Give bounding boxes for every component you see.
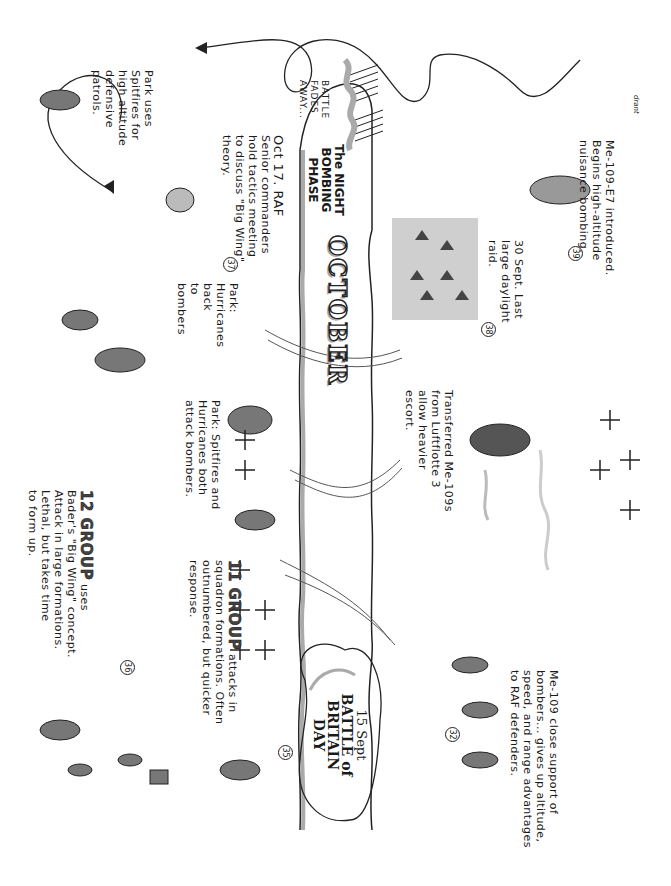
note-11-group: 11 GROUP attacks in squadron formations.… <box>187 560 240 724</box>
marker-38: 38 <box>481 322 501 340</box>
battle-fades-label: BATTLE FADES AWAY... <box>297 80 330 130</box>
note-park-both: Park: Spitfires and Hurricanes both atta… <box>183 400 222 510</box>
artist-signature: drant <box>632 95 640 114</box>
battle-of-britain-day: 15 Sept BATTLE of BRITAIN DAY <box>312 690 368 780</box>
heading-12-group: 12 GROUP <box>77 490 95 580</box>
month-label-october: OCTOBER <box>323 235 352 386</box>
marker-36: 36 <box>120 660 135 678</box>
smoke-trail-2 <box>485 470 488 520</box>
note-30-sept: 30 Sept. Last large daylight raid. <box>486 240 525 323</box>
marker-39: 39 <box>568 246 588 264</box>
arrowhead-left <box>195 42 207 54</box>
note-me109-support: Me-109 close support of bombers... gives… <box>508 670 560 848</box>
smoke-trail <box>540 450 549 570</box>
night-bombing-phase-label: The NIGHT BOMBING PHASE <box>306 140 345 220</box>
note-oct-17: Oct 17. RAF Senior commanders hold tacti… <box>220 135 285 263</box>
marker-32: 32 <box>445 727 465 745</box>
heading-11-group: 11 GROUP <box>225 560 243 650</box>
note-transferred: Transferred Me-109s from Luftflotte 3 al… <box>403 390 455 512</box>
arrowhead-path <box>104 180 114 194</box>
marker-35: 35 <box>278 745 298 763</box>
note-park-spitfires: Park uses Spitfires for high altitude de… <box>90 70 155 146</box>
note-12-group: 12 GROUP uses Bader's "Big Wing" concept… <box>26 490 92 658</box>
last-raid-patch <box>392 218 478 320</box>
note-park-hurricanes: Park: Hurricanes back to bombers <box>175 283 240 347</box>
marker-37: 37 <box>223 257 243 275</box>
